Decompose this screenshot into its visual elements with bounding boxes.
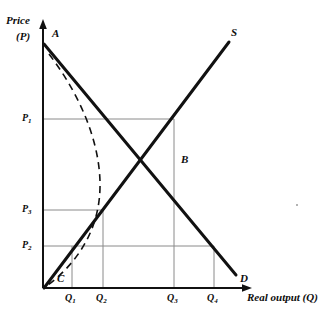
point-label-A: A bbox=[52, 28, 59, 39]
y-axis-title-line2: (P) bbox=[16, 31, 30, 42]
point-label-C: C bbox=[57, 273, 64, 284]
diagram-canvas bbox=[0, 0, 326, 319]
x-axis bbox=[43, 284, 252, 292]
y-axis bbox=[39, 19, 47, 288]
y-axis-title-line1: Price bbox=[6, 15, 30, 26]
quantity-tick-Q4: Q4 bbox=[207, 293, 218, 303]
quantity-gridlines bbox=[72, 119, 214, 288]
price-gridlines bbox=[43, 119, 214, 246]
quantity-tick-Q3: Q3 bbox=[167, 293, 178, 303]
point-label-B: B bbox=[181, 154, 188, 165]
price-tick-P1: P1 bbox=[22, 113, 32, 123]
quantity-tick-Q2: Q2 bbox=[96, 293, 107, 303]
curve-label-D: D bbox=[240, 273, 248, 284]
supply-demand-figure: Price (P) Real output (Q) P1 P3 P2 Q1 Q2… bbox=[0, 0, 326, 319]
price-tick-P3: P3 bbox=[22, 204, 32, 214]
speck bbox=[296, 204, 298, 206]
price-tick-P2: P2 bbox=[22, 240, 32, 250]
x-axis-title: Real output (Q) bbox=[247, 292, 318, 303]
curve-label-S: S bbox=[231, 27, 237, 38]
quantity-tick-Q1: Q1 bbox=[65, 293, 76, 303]
